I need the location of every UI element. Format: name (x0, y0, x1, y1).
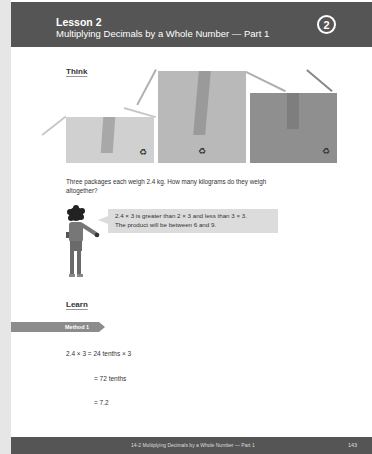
box-tape (287, 93, 299, 129)
box-flap (307, 69, 333, 91)
box-flap (42, 116, 67, 136)
speech-bubble: 2.4 × 3 is greater than 2 × 3 and less t… (108, 209, 278, 233)
unit-badge: 2 (317, 15, 336, 34)
recycle-icon: ♻ (198, 147, 206, 156)
box-tape (193, 71, 211, 135)
page-margin-strip (0, 0, 11, 454)
question-text: Three packages each weigh 2.4 kg. How ma… (66, 177, 316, 195)
think-heading: Think (66, 67, 87, 76)
small-box: ♻ (66, 117, 154, 163)
medium-box: ♻ (158, 71, 246, 163)
page-footer: 14-2 Multiplying Decimals by a Whole Num… (11, 437, 372, 454)
box-flap (124, 107, 156, 118)
math-step-3: = 7.2 (94, 399, 109, 406)
speech-line-2: The product will be between 6 and 9. (115, 221, 247, 230)
box-flap (136, 69, 156, 105)
footer-title: 14-2 Multiplying Decimals by a Whole Num… (131, 442, 255, 448)
math-step-1: 2.4 × 3 = 24 tenths × 3 (66, 350, 131, 357)
math-step-2: = 72 tenths (94, 375, 126, 382)
large-box: ♻ (250, 93, 337, 163)
box-tape (101, 117, 116, 153)
recycle-icon: ♻ (139, 148, 147, 157)
speech-line-1: 2.4 × 3 is greater than 2 × 3 and less t… (115, 212, 247, 221)
recycle-icon: ♻ (322, 147, 330, 156)
lesson-title: Multiplying Decimals by a Whole Number —… (56, 28, 269, 39)
method-tag: Method 1 (11, 322, 99, 332)
method-label: Method 1 (65, 324, 89, 330)
lesson-number: Lesson 2 (56, 16, 102, 28)
learn-heading: Learn (66, 300, 88, 309)
page-number: 143 (348, 442, 357, 448)
box-flap (246, 71, 286, 92)
